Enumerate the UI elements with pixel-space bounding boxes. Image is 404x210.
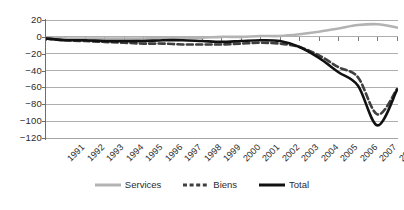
x-axis-tick-label: 2004 [318, 142, 340, 164]
x-axis-tick-label: 2007 [377, 142, 399, 164]
legend-item-services[interactable]: Services [95, 180, 161, 190]
legend-label: Services [125, 180, 161, 190]
x-axis-tick-label: 2001 [260, 142, 282, 164]
y-axis-tick-label: 0 [2, 32, 42, 42]
line-swatch-solid-gray-icon [95, 181, 121, 189]
plot-svg [46, 20, 398, 139]
legend-item-total[interactable]: Total [259, 180, 309, 190]
y-axis-tick-label: −20 [2, 49, 42, 59]
x-axis-tick-label: 2003 [299, 142, 321, 164]
x-axis-tick-label: 1993 [104, 142, 126, 164]
y-axis-tick-label: −40 [2, 66, 42, 76]
plot-area [46, 20, 398, 139]
line-chart: 200−20−40−60−80−100−120 1991199219931994… [0, 0, 404, 210]
x-axis-tick-label: 1997 [182, 142, 204, 164]
x-axis-tick-label: 2006 [357, 142, 379, 164]
x-axis-tick-label: 1999 [221, 142, 243, 164]
legend-item-biens[interactable]: Biens [183, 180, 237, 190]
y-axis-tick-label: 20 [2, 15, 42, 25]
series-line-total [46, 39, 397, 126]
line-swatch-solid-black-icon [259, 181, 285, 189]
y-axis-tick-label: −100 [2, 116, 42, 126]
x-axis-labels: 1991199219931994199519961997199819992000… [46, 140, 398, 176]
x-axis-tick-label: 2008 [396, 142, 404, 164]
x-axis-tick-label: 2005 [338, 142, 360, 164]
x-axis-tick-label: 1992 [84, 142, 106, 164]
x-axis-tick-label: 1994 [123, 142, 145, 164]
line-swatch-dashed-dark-icon [183, 181, 209, 189]
x-axis-tick-label: 2002 [279, 142, 301, 164]
x-axis-tick-label: 1996 [162, 142, 184, 164]
x-axis-tick-label: 1991 [65, 142, 87, 164]
legend-label: Total [289, 180, 309, 190]
y-axis-tick-label: −60 [2, 82, 42, 92]
legend-label: Biens [213, 180, 237, 190]
x-axis-tick-label: 1995 [143, 142, 165, 164]
x-axis-tick-label: 1998 [201, 142, 223, 164]
chart-legend: ServicesBiensTotal [0, 176, 404, 194]
x-axis-tick-label: 2000 [240, 142, 262, 164]
y-axis-tick-label: −120 [2, 133, 42, 143]
y-axis-tick-label: −80 [2, 99, 42, 109]
